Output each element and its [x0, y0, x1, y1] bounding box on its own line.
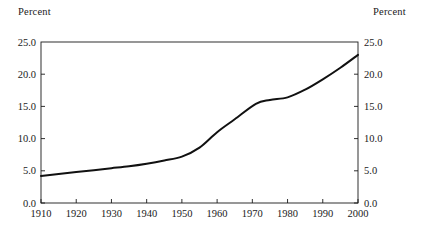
- y-tick-label-left: 15.0: [18, 101, 36, 112]
- x-tick-label: 1940: [136, 208, 157, 219]
- x-tick-label: 1960: [207, 208, 228, 219]
- left-axis-tick-labels: 25.020.015.010.05.00.0: [18, 37, 36, 209]
- y-tick-label-right: 10.0: [364, 133, 382, 144]
- y-tick-label-right: 20.0: [364, 69, 382, 80]
- x-tick-label: 2000: [348, 208, 369, 219]
- x-tick-label: 1930: [101, 208, 122, 219]
- x-tick-label: 1990: [312, 208, 333, 219]
- x-tick-label: 1910: [31, 208, 52, 219]
- left-axis-ticks: [41, 74, 45, 203]
- percent-line-chart: Percent Percent 25.020.015.010.05.00.0 2…: [0, 0, 421, 235]
- y-tick-label-right: 25.0: [364, 37, 382, 48]
- x-tick-label: 1920: [66, 208, 87, 219]
- bottom-axis-tick-labels: 1910192019301940195019601970198019902000: [31, 208, 369, 219]
- right-axis-ticks: [354, 74, 358, 203]
- y-tick-label-left: 10.0: [18, 133, 36, 144]
- y-tick-label-right: 5.0: [364, 165, 377, 176]
- right-axis-tick-labels: 25.020.015.010.05.00.0: [364, 37, 382, 209]
- x-tick-label: 1970: [242, 208, 263, 219]
- x-tick-label: 1950: [171, 208, 192, 219]
- data-series-line: [41, 55, 358, 176]
- plot-frame: [41, 42, 358, 203]
- y-tick-label-left: 25.0: [18, 37, 36, 48]
- y-tick-label-left: 20.0: [18, 69, 36, 80]
- y-tick-label-left: 0.0: [23, 198, 36, 209]
- x-tick-label: 1980: [277, 208, 298, 219]
- y-tick-label-right: 0.0: [364, 198, 377, 209]
- y-tick-label-right: 15.0: [364, 101, 382, 112]
- y-tick-label-left: 5.0: [23, 165, 36, 176]
- plot-area: 25.020.015.010.05.00.0 25.020.015.010.05…: [0, 0, 421, 235]
- bottom-axis-ticks: [41, 199, 358, 203]
